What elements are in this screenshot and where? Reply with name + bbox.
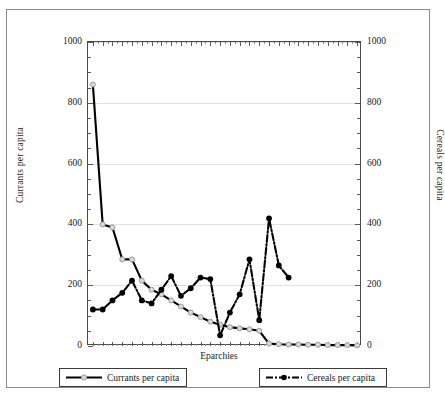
data-point xyxy=(169,298,174,303)
data-point xyxy=(100,307,106,313)
y-tick-label-right: 400 xyxy=(367,218,407,228)
y-tick-label-right: 200 xyxy=(367,279,407,289)
plot-area xyxy=(87,41,361,345)
data-point xyxy=(119,290,125,296)
series-line-currants xyxy=(93,85,357,346)
data-point xyxy=(178,304,183,309)
y-tick-label-right: 0 xyxy=(367,340,407,350)
data-point xyxy=(188,310,193,315)
data-point xyxy=(198,275,204,281)
data-point xyxy=(149,301,155,307)
data-point xyxy=(158,287,164,293)
data-point xyxy=(178,293,184,299)
data-point xyxy=(139,278,144,283)
data-point xyxy=(237,291,243,297)
y-tick-label-left: 400 xyxy=(42,218,82,228)
data-point xyxy=(130,257,135,262)
y-tick-label-right: 800 xyxy=(367,97,407,107)
x-axis-title: Eparchies xyxy=(7,351,431,361)
y-tick-label-left: 200 xyxy=(42,279,82,289)
y-tick-label-left: 0 xyxy=(42,340,82,350)
data-point xyxy=(110,225,115,230)
data-point xyxy=(247,327,252,332)
data-point xyxy=(267,341,272,346)
data-point xyxy=(90,307,96,313)
y-tick-label-right: 600 xyxy=(367,158,407,168)
data-point xyxy=(247,256,253,262)
y-tick-label-left: 800 xyxy=(42,97,82,107)
data-point xyxy=(315,342,320,347)
currants-line-sample xyxy=(65,372,103,383)
data-point xyxy=(237,326,242,331)
data-point xyxy=(257,328,262,333)
data-point xyxy=(296,342,301,347)
y-axis-right-title: Cereals per capita xyxy=(435,110,445,220)
y-tick-label-left: 1000 xyxy=(42,36,82,46)
legend-cereals: Cereals per capita xyxy=(259,368,387,387)
data-point xyxy=(227,310,233,316)
data-point xyxy=(256,317,262,323)
data-point xyxy=(188,285,194,291)
data-point xyxy=(120,257,125,262)
y-tick-label-left: 600 xyxy=(42,158,82,168)
data-point xyxy=(207,276,213,282)
data-point xyxy=(168,273,174,279)
data-point xyxy=(276,342,281,347)
data-point xyxy=(100,222,105,227)
data-point xyxy=(139,298,145,304)
data-point xyxy=(335,343,340,348)
y-tick-label-right: 1000 xyxy=(367,36,407,46)
legend-currants: Currants per capita xyxy=(59,368,187,387)
y-axis-left-title: Currants per capita xyxy=(15,110,25,220)
data-point xyxy=(286,275,292,281)
data-point xyxy=(149,287,154,292)
data-point xyxy=(227,325,232,330)
cereals-line-sample xyxy=(265,372,303,383)
data-point xyxy=(306,342,311,347)
data-point xyxy=(345,343,350,348)
data-point xyxy=(325,343,330,348)
data-point xyxy=(355,343,360,348)
data-point xyxy=(276,263,282,269)
data-point xyxy=(208,319,213,324)
series-layer xyxy=(88,42,362,346)
data-point xyxy=(110,298,116,304)
data-point xyxy=(90,82,95,87)
data-point xyxy=(129,278,135,284)
data-point xyxy=(217,332,223,338)
chart-figure: Currants per capita Cereals per capita E… xyxy=(6,9,430,388)
y-tick-major xyxy=(88,346,93,347)
data-point xyxy=(286,342,291,347)
legend-cereals-label: Cereals per capita xyxy=(307,373,375,383)
data-point xyxy=(266,215,272,221)
data-point xyxy=(198,315,203,320)
legend-currants-label: Currants per capita xyxy=(107,373,179,383)
